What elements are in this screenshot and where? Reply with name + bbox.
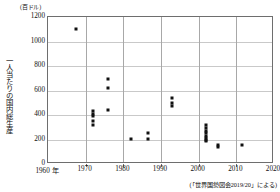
gridline-horizontal (48, 140, 272, 141)
gridline-vertical (236, 17, 237, 162)
plot-area (47, 16, 273, 163)
y-axis-tick-label: 1000 (3, 37, 45, 45)
y-axis-tick-label: 400 (3, 110, 45, 118)
y-axis-unit-label: (百ドル) (20, 2, 41, 11)
x-axis-tick-label: 1970 (77, 165, 91, 173)
x-axis-tick-label: 2010 (228, 165, 242, 173)
data-point (146, 132, 149, 135)
data-point (240, 144, 243, 147)
y-axis-tick-label: 600 (3, 86, 45, 94)
data-point (75, 28, 78, 31)
y-axis-tick-label: 200 (3, 135, 45, 143)
gridline-vertical (86, 17, 87, 162)
data-point (171, 104, 174, 107)
x-axis-tick-label: 1980 (115, 165, 129, 173)
y-axis-tick-labels: 020040060080010001200 (0, 16, 45, 163)
gridline-horizontal (48, 115, 272, 116)
gridline-vertical (199, 17, 200, 162)
gridline-horizontal (48, 42, 272, 43)
gridline-vertical (123, 17, 124, 162)
y-axis-tick-label: 1200 (3, 12, 45, 20)
x-axis-tick-label: 2000 (190, 165, 204, 173)
data-point (205, 140, 208, 143)
source-citation: (「世界国勢図会2019/20」による) (190, 180, 277, 189)
chart-root: (百ドル) 一人当たりの国内総生産 020040060080010001200 … (0, 0, 280, 192)
x-axis-tick-label: 1990 (153, 165, 167, 173)
gridline-horizontal (48, 91, 272, 92)
data-point (146, 137, 149, 140)
data-point (107, 78, 110, 81)
data-point (92, 123, 95, 126)
data-point (107, 109, 110, 112)
data-point (129, 137, 132, 140)
data-point (92, 120, 95, 123)
data-point (92, 115, 95, 118)
gridline-vertical (161, 17, 162, 162)
data-point (107, 87, 110, 90)
x-axis-tick-labels: 1960 年197019801990200020102020 (0, 165, 280, 177)
data-point (171, 96, 174, 99)
gridline-horizontal (48, 66, 272, 67)
data-point (216, 145, 219, 148)
y-axis-tick-label: 800 (3, 61, 45, 69)
x-axis-tick-label: 1960 年 (35, 165, 58, 175)
x-axis-tick-label: 2020 (266, 165, 280, 173)
